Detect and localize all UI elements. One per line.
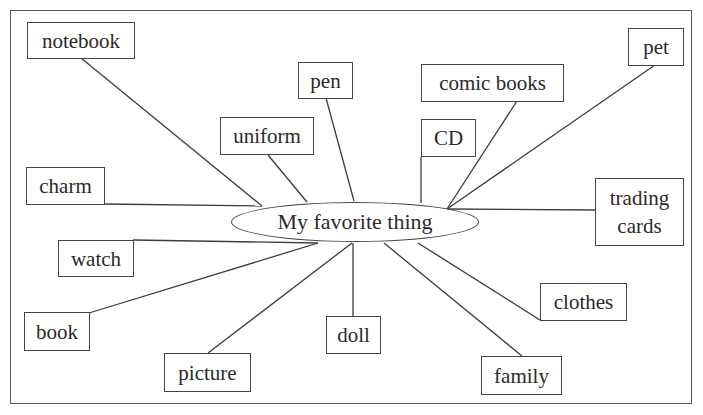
link-pen xyxy=(326,98,354,201)
node-label: pet xyxy=(643,33,669,61)
node-family: family xyxy=(481,356,562,395)
node-uniform: uniform xyxy=(220,117,314,155)
node-label: uniform xyxy=(233,122,301,150)
node-label: doll xyxy=(337,321,370,349)
center-node-label: My favorite thing xyxy=(277,209,432,235)
node-pen: pen xyxy=(298,62,353,99)
node-label: pen xyxy=(310,67,340,95)
node-label: watch xyxy=(71,245,121,273)
mind-map-diagram: My favorite thing notebook pen uniform c… xyxy=(0,0,703,415)
link-trading-cards xyxy=(447,209,595,210)
link-charm xyxy=(104,204,262,206)
node-doll: doll xyxy=(326,316,381,354)
node-notebook: notebook xyxy=(27,22,135,59)
node-cd: CD xyxy=(421,119,476,157)
node-pet: pet xyxy=(628,28,684,66)
link-watch xyxy=(133,240,318,243)
node-label: family xyxy=(494,362,549,390)
node-label: charm xyxy=(39,172,91,200)
node-trading-cards: trading cards xyxy=(595,178,684,246)
link-uniform xyxy=(268,155,307,202)
node-label-line1: trading xyxy=(610,184,669,212)
node-watch: watch xyxy=(58,240,134,277)
link-family xyxy=(384,243,522,356)
node-book: book xyxy=(24,312,90,351)
node-comic-books: comic books xyxy=(421,64,564,102)
node-clothes: clothes xyxy=(540,283,627,321)
center-node: My favorite thing xyxy=(231,202,479,242)
node-label: picture xyxy=(178,359,236,387)
node-label-line2: cards xyxy=(617,212,661,240)
node-charm: charm xyxy=(26,167,105,205)
link-clothes xyxy=(418,243,540,320)
node-label: book xyxy=(36,318,78,346)
node-label: clothes xyxy=(554,288,613,316)
node-label: CD xyxy=(434,124,463,152)
node-label: comic books xyxy=(439,69,546,97)
node-picture: picture xyxy=(164,353,251,392)
node-label: notebook xyxy=(42,27,120,55)
